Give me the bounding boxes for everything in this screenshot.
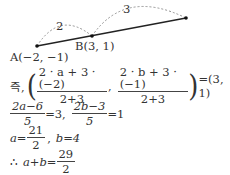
hence-label: 즉, — [10, 78, 25, 94]
sum-numerator: 29 — [57, 148, 76, 162]
eq-b-rhs: =1 — [107, 107, 124, 121]
eq-b-denominator: 5 — [84, 114, 95, 127]
point-a-label: A(−2, −1) — [10, 50, 69, 64]
eq-a-numerator: 2a−6 — [10, 100, 45, 114]
y-denominator: 2+3 — [139, 92, 167, 105]
x-numerator: 2 · a + 3 · (−2) — [37, 66, 107, 92]
result-point: =(3, 1) — [198, 72, 230, 100]
segment-diagram-svg — [0, 0, 230, 55]
therefore-icon: ∴ — [10, 155, 18, 169]
sum-denominator: 2 — [60, 162, 71, 175]
arc-bc-label: 3 — [123, 2, 130, 16]
eq-a-rhs: =3, — [45, 107, 66, 121]
eq-b-numerator: 2b−3 — [72, 100, 108, 114]
right-paren: ) — [188, 71, 198, 101]
y-numerator: 2 · b + 3 · (−1) — [118, 66, 189, 92]
point-b-dot — [90, 34, 94, 38]
point-c-dot — [184, 16, 188, 20]
sum-lhs: a+b= — [23, 155, 57, 169]
point-b-label: B(3, 1) — [75, 39, 114, 53]
comma: , — [47, 131, 51, 145]
solution-line-4: ∴ a+b= 29 2 — [10, 148, 75, 175]
left-paren: ( — [27, 71, 37, 101]
a-lhs: a= — [10, 131, 27, 145]
sum-fraction: 29 2 — [57, 148, 76, 175]
y-coordinate-fraction: 2 · b + 3 · (−1) 2+3 — [118, 66, 189, 105]
point-a-dot — [35, 44, 39, 48]
b-value: b=4 — [56, 131, 80, 145]
segment-diagram: 2 3 B(3, 1) — [0, 0, 230, 55]
comma: , — [108, 79, 112, 93]
a-numerator: 21 — [27, 124, 46, 138]
arc-ab-label: 2 — [56, 19, 63, 33]
